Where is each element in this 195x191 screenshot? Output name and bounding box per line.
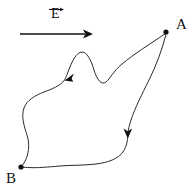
point-label-a: A — [176, 17, 187, 32]
field-vector-arrow — [20, 30, 93, 39]
field-label-e: E — [51, 7, 60, 21]
point-label-b: B — [6, 171, 16, 186]
lower-path-direction-arrowhead-icon — [123, 129, 132, 139]
field-path-figure: E A B — [0, 0, 195, 191]
point-b-dot — [18, 164, 23, 169]
point-a-dot — [163, 29, 168, 34]
lower-path-curve — [22, 35, 166, 168]
figure-canvas — [0, 0, 195, 191]
upper-path-curve — [21, 34, 165, 167]
